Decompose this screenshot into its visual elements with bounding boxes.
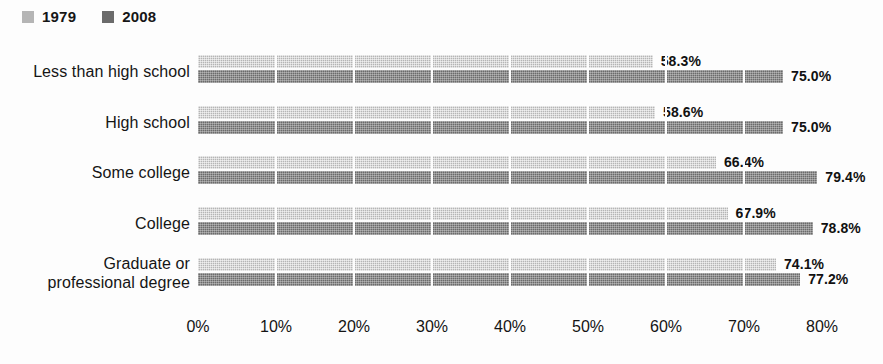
bar-1979: [198, 106, 655, 119]
category-label-line: Graduate or: [0, 254, 190, 273]
bar-2008: [198, 70, 783, 83]
bar-value-label: 79.4%: [825, 169, 865, 185]
bar-2008: [198, 121, 783, 134]
category-label-line: College: [0, 214, 190, 233]
bar-value-label: 75.0%: [791, 119, 831, 135]
bar-value-label: 67.9%: [736, 205, 776, 221]
bar-value-label: 75.0%: [791, 68, 831, 84]
x-tick-label: 80%: [806, 318, 838, 336]
category-label-line: Some college: [0, 163, 190, 182]
category-label-line: High school: [0, 113, 190, 132]
category-label: College: [0, 214, 190, 233]
bar-value-label: 66.4%: [724, 154, 764, 170]
bar-1979: [198, 258, 776, 271]
bar-1979: [198, 156, 716, 169]
bar-value-label: 74.1%: [784, 256, 824, 272]
x-tick-label: 0%: [186, 318, 209, 336]
bar-value-label: 58.6%: [663, 104, 703, 120]
bar-1979: [198, 207, 728, 220]
bar-chart: 1979 2008 Less than high school58.3%75.0…: [0, 0, 883, 364]
category-label-line: Less than high school: [0, 62, 190, 81]
x-tick-label: 10%: [260, 318, 292, 336]
x-axis: 0%10%20%30%40%50%60%70%80%: [0, 318, 883, 342]
bar-value-label: 58.3%: [661, 53, 701, 69]
bar-value-label: 77.2%: [808, 271, 848, 287]
plot-area: Less than high school58.3%75.0%High scho…: [0, 0, 883, 364]
x-tick-label: 60%: [650, 318, 682, 336]
category-label: Less than high school: [0, 62, 190, 81]
category-label: Some college: [0, 163, 190, 182]
x-tick-label: 40%: [494, 318, 526, 336]
category-label-line: professional degree: [0, 273, 190, 292]
x-tick-label: 30%: [416, 318, 448, 336]
category-label: Graduate orprofessional degree: [0, 254, 190, 292]
category-label: High school: [0, 113, 190, 132]
x-tick-label: 50%: [572, 318, 604, 336]
bar-value-label: 78.8%: [821, 220, 861, 236]
bar-2008: [198, 171, 817, 184]
bar-2008: [198, 222, 813, 235]
x-tick-label: 20%: [338, 318, 370, 336]
bar-1979: [198, 55, 653, 68]
x-tick-label: 70%: [728, 318, 760, 336]
bar-2008: [198, 273, 800, 286]
